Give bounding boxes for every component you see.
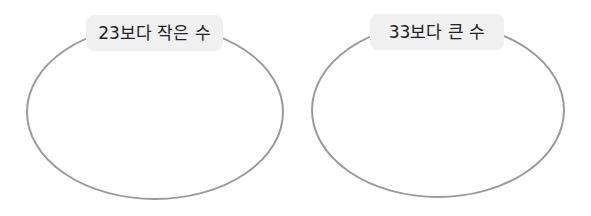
right-group-label: 33보다 큰 수 bbox=[370, 14, 504, 50]
left-group-ellipse bbox=[27, 25, 283, 199]
left-group-label: 23보다 작은 수 bbox=[86, 15, 223, 51]
